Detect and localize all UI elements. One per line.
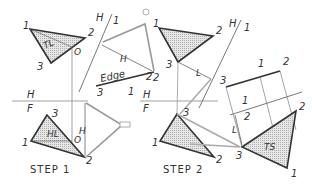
vertex-1: 1 (23, 20, 29, 31)
edge-point-2-2: 2 (283, 56, 289, 67)
point-o-top: O (74, 47, 81, 57)
step1-caption: STEP 1 (30, 164, 70, 175)
vertex-3: 3 (37, 61, 43, 72)
ts-vertex-1: 1 (291, 168, 297, 179)
step1: H F 1 2 3 TL O 3 1 2 HL O H H 1 (12, 9, 159, 175)
vertex-1-front: 1 (22, 137, 28, 148)
front-view-triangle-2 (160, 114, 214, 157)
aux-fold2-1: 1 (242, 95, 248, 106)
dimension-h-diagonal (102, 45, 152, 71)
fold-label-h: H (27, 89, 35, 100)
dimension-l-top (178, 62, 211, 79)
projector-3 (177, 62, 178, 114)
aux-fold2-2: 2 (244, 111, 250, 122)
aux-fold-h-2: H (229, 18, 237, 29)
vertex-3-front: 3 (52, 108, 58, 119)
edge-point-1-2: 1 (258, 58, 264, 69)
point-o-front: O (74, 135, 81, 145)
ts-vertex-2: 2 (299, 101, 305, 112)
edge-point-3: 3 (97, 87, 103, 98)
vertex-2-ghost: 2 (146, 71, 152, 82)
dimension-l-label: L (196, 68, 201, 78)
vertex-1-front-2: 1 (152, 137, 158, 148)
dividers-top (103, 24, 154, 71)
fold-label-f: F (27, 103, 33, 114)
fold-label-f-2: F (143, 103, 149, 114)
aux-fold-1: 1 (113, 15, 119, 26)
step2: H F 1 2 3 2 H 1 L 3 1 2 1 2 L (140, 18, 305, 179)
vertex-2-front-2: 2 (216, 154, 222, 165)
ts-vertex-3: 3 (236, 150, 242, 161)
dividers-head (120, 122, 130, 127)
dimension-l-lower-label: L (232, 125, 237, 135)
projector-edge-3 (226, 87, 242, 147)
dimension-h-label: H (79, 126, 86, 136)
vertex-3-front-2: 3 (183, 107, 189, 118)
ts-label: TS (264, 142, 275, 152)
aux-fold-1-2: 1 (244, 22, 250, 33)
edge-point-3-2: 3 (220, 75, 226, 86)
descriptive-geometry-figure: H F 1 2 3 TL O 3 1 2 HL O H H 1 (0, 0, 312, 184)
aux-fold-h: H (96, 12, 104, 23)
top-view-triangle-2 (159, 28, 213, 62)
edge-view-line-2 (226, 71, 280, 87)
vertex-3-2: 3 (166, 59, 172, 70)
edge-point-2: 2 (153, 72, 159, 83)
edge-point-1: 1 (128, 86, 134, 97)
edge-label: Edge (99, 68, 126, 84)
dimension-h-diag-label: H (120, 54, 127, 64)
vertex-1-2: 1 (153, 18, 159, 29)
fold-label-h-2: H (143, 89, 151, 100)
hl-label: HL (47, 129, 59, 139)
step2-caption: STEP 2 (163, 164, 203, 175)
vertex-2: 2 (88, 27, 94, 38)
top-view-triangle (30, 29, 85, 63)
dividers-bottom (86, 103, 122, 157)
vertex-2-2: 2 (216, 25, 222, 36)
dividers-top-head (143, 9, 149, 15)
